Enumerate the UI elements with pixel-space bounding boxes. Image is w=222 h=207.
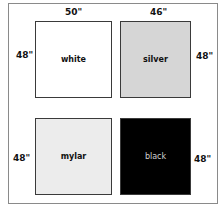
silver-width-label: 46" (150, 7, 167, 17)
black-panel-label: black (145, 152, 166, 161)
white-width-label: 50" (65, 7, 82, 17)
white-panel-label: white (61, 55, 86, 64)
silver-panel-label: silver (143, 55, 168, 64)
black-panel: black (120, 118, 191, 195)
white-height-label: 48" (16, 50, 33, 60)
silver-height-label: 48" (196, 51, 213, 61)
black-height-label: 48" (194, 154, 211, 164)
mylar-height-label: 48" (13, 153, 30, 163)
white-panel: white (35, 21, 112, 98)
mylar-panel: mylar (35, 118, 112, 195)
silver-panel: silver (120, 21, 191, 98)
mylar-panel-label: mylar (61, 152, 87, 161)
